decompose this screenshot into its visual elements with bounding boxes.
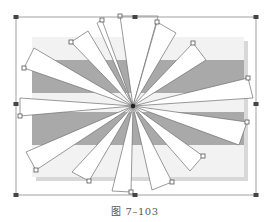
blade-handle[interactable]	[22, 66, 26, 70]
blade-handle[interactable]	[191, 41, 195, 45]
resize-handle[interactable]	[254, 193, 259, 197]
blade-handle[interactable]	[100, 18, 104, 22]
starburst-diagram	[0, 0, 270, 222]
resize-handle[interactable]	[254, 102, 259, 106]
blade-handle[interactable]	[201, 154, 205, 158]
resize-handle[interactable]	[14, 102, 19, 106]
resize-handle[interactable]	[14, 193, 19, 197]
center-point[interactable]	[131, 104, 135, 108]
blade-handle[interactable]	[129, 190, 133, 194]
blade-handle[interactable]	[245, 120, 249, 124]
resize-handle[interactable]	[133, 15, 138, 19]
blade-handle[interactable]	[34, 168, 38, 172]
blade-handle[interactable]	[246, 76, 250, 80]
blade-handle[interactable]	[18, 114, 22, 118]
resize-handle[interactable]	[133, 193, 138, 197]
resize-handle[interactable]	[254, 15, 259, 19]
blade-handle[interactable]	[87, 179, 91, 183]
blade-handle[interactable]	[170, 180, 174, 184]
blade-handle[interactable]	[155, 20, 159, 24]
figure-caption: 图 7–103	[0, 203, 270, 218]
resize-handle[interactable]	[14, 15, 19, 19]
blade-handle[interactable]	[69, 40, 73, 44]
